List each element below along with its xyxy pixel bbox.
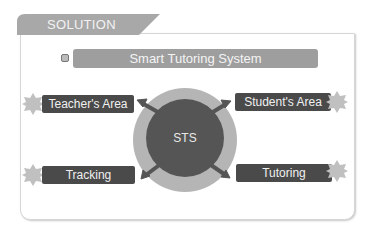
- star-badge-icon: [22, 164, 44, 186]
- node-tutoring: Tutoring: [236, 164, 332, 182]
- hub-diagram: [0, 0, 370, 234]
- star-badge-icon: [22, 93, 44, 115]
- star-badge-icon: [326, 91, 348, 113]
- node-teachers-area: Teacher's Area: [42, 95, 134, 113]
- node-tracking: Tracking: [42, 166, 135, 184]
- center-label: STS: [165, 131, 205, 145]
- node-students-area: Student's Area: [235, 93, 331, 111]
- star-badge-icon: [326, 160, 348, 182]
